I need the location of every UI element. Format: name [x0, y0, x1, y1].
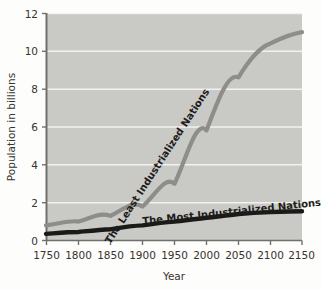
x-tick-label-1900: 1900 [129, 249, 156, 261]
y-axis-tick-labels: 12 10 8 6 4 2 0 [25, 8, 39, 247]
y-tick-label-12: 12 [25, 8, 38, 20]
y-tick-label-4: 4 [31, 159, 38, 171]
y-tick-label-0: 0 [31, 235, 38, 247]
chart-container: 12 10 8 6 4 2 0 1750 1800 1850 1900 1950… [0, 0, 322, 290]
x-tick-label-1850: 1850 [97, 249, 124, 261]
x-tick-label-1950: 1950 [161, 249, 188, 261]
x-tick-label-2050: 2050 [225, 249, 252, 261]
x-axis-title: Year [162, 270, 186, 282]
y-tick-label-6: 6 [31, 121, 38, 133]
y-axis-title: Population in billions [5, 73, 17, 181]
y-axis-ticks [42, 14, 46, 241]
x-tick-label-2000: 2000 [193, 249, 220, 261]
y-tick-label-10: 10 [25, 45, 38, 57]
y-tick-label-2: 2 [31, 197, 38, 209]
population-growth-chart: 12 10 8 6 4 2 0 1750 1800 1850 1900 1950… [0, 0, 322, 290]
x-tick-label-1750: 1750 [33, 249, 60, 261]
x-tick-label-2100: 2100 [257, 249, 284, 261]
x-axis-tick-labels: 1750 1800 1850 1900 1950 2000 2050 2100 … [33, 249, 315, 261]
x-tick-label-2150: 2150 [288, 249, 315, 261]
x-tick-label-1800: 1800 [65, 249, 92, 261]
y-tick-label-8: 8 [31, 83, 38, 95]
